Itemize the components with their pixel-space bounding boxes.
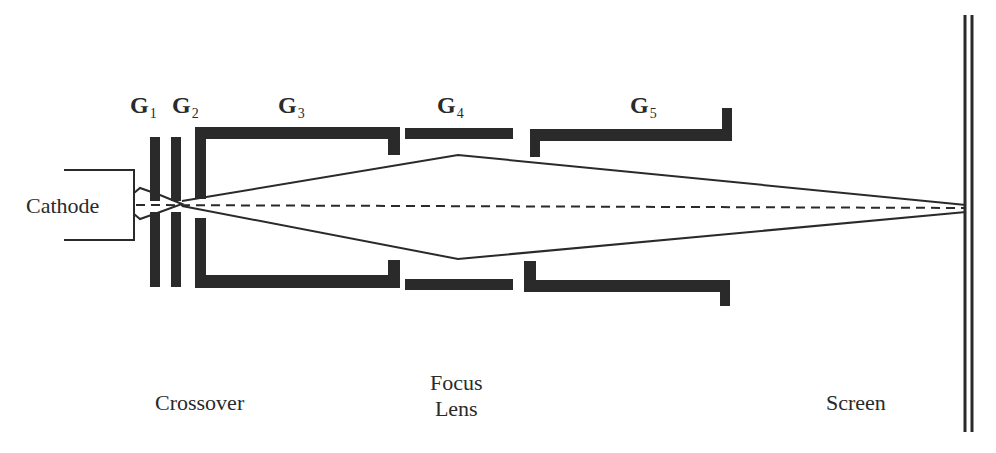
g5-bottom-end bbox=[720, 280, 730, 306]
label-screen: Screen bbox=[826, 390, 886, 416]
label-focus: Focus bbox=[430, 370, 483, 396]
beam-envelope-upper bbox=[182, 155, 966, 205]
g3-top-lip bbox=[388, 127, 400, 155]
optical-axis bbox=[136, 205, 966, 208]
label-crossover: Crossover bbox=[155, 390, 244, 416]
g3-bottom-lip bbox=[388, 260, 400, 288]
g2-plate-top bbox=[171, 137, 181, 201]
g1-plate-top bbox=[150, 137, 160, 201]
label-g1: G1 bbox=[130, 92, 157, 122]
label-focus-lens: Focus Lens bbox=[430, 370, 483, 422]
label-g2: G2 bbox=[172, 92, 199, 122]
g5-bottom-bar bbox=[524, 280, 730, 292]
label-lens: Lens bbox=[430, 396, 483, 422]
g5-top-end bbox=[722, 108, 732, 141]
g1-plate-bottom bbox=[150, 212, 160, 287]
g3-top-bar bbox=[195, 127, 400, 139]
label-g4: G4 bbox=[437, 92, 464, 122]
beam-envelope-lower bbox=[182, 206, 966, 259]
g5-top-bar bbox=[530, 129, 732, 141]
g4-bottom-bar bbox=[405, 279, 513, 290]
g2-plate-bottom bbox=[171, 212, 181, 287]
g4-top-bar bbox=[405, 128, 513, 139]
g3-bottom-bar bbox=[195, 275, 400, 288]
label-g5: G5 bbox=[630, 92, 657, 122]
label-g3: G3 bbox=[278, 92, 305, 122]
electron-gun-diagram bbox=[0, 0, 996, 453]
label-cathode: Cathode bbox=[26, 193, 99, 219]
